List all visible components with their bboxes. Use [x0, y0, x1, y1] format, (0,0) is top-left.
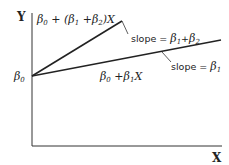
regression-slope-diagram: Y X β0 β0 + (β1 +β2)X slope = β1+β2 β0 +… — [0, 0, 229, 165]
shallow-line-equation: β0 +β1X — [99, 70, 143, 84]
shallow-slope-leader — [162, 52, 171, 62]
steep-slope-leader — [122, 21, 128, 34]
shallow-slope-label: slope = β1 — [171, 60, 221, 74]
steep-line-equation: β0 + (β1 +β2)X — [36, 13, 116, 27]
steep-slope-label: slope = β1+β2 — [131, 32, 200, 46]
intercept-label: β0 — [13, 70, 25, 84]
x-axis-label: X — [212, 151, 222, 165]
y-axis-label: Y — [16, 10, 26, 24]
